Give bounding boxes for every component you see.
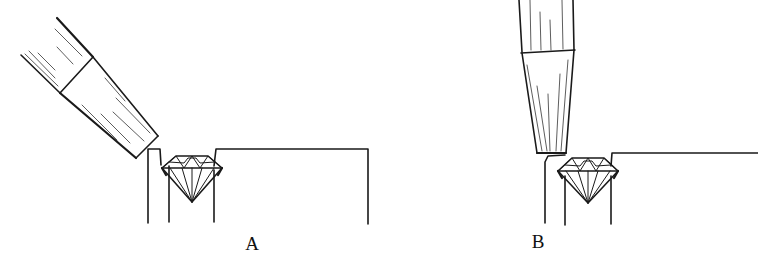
diamond-table-facets <box>565 161 611 166</box>
tool-shaft-hatch <box>113 112 144 141</box>
tool-handle-hatch <box>55 29 82 56</box>
panel-label-b: B <box>532 231 545 252</box>
diamond-a <box>162 156 222 202</box>
panel-label-a: A <box>245 233 259 254</box>
diamond-crown-facets <box>558 158 618 171</box>
tool-handle-hatch <box>29 51 55 78</box>
tool-shaft-hatch <box>556 74 560 151</box>
tool-handle-right-edge <box>573 0 574 50</box>
tool-ferrule-band <box>60 57 93 93</box>
panel-b: B <box>519 0 758 252</box>
bezel-left-wall <box>545 155 565 223</box>
tool-handle-hatch <box>562 0 563 49</box>
diamond-table-facets <box>169 158 215 163</box>
tool-shaft-lower-edge <box>60 93 136 158</box>
bezel-right-block <box>611 153 758 166</box>
tool-handle-hatch <box>530 0 531 50</box>
tool-shaft-hatch <box>548 94 550 151</box>
tool-handle-hatch <box>38 53 55 70</box>
tool-handle-hatch <box>57 47 73 64</box>
bezel-right-block <box>214 149 368 224</box>
diagram-canvas: A <box>0 0 758 262</box>
tool-shaft-hatch <box>537 86 547 151</box>
bezel-setting-a <box>148 149 368 224</box>
diamond-b <box>558 158 618 203</box>
tool-handle-hatch <box>550 20 551 50</box>
pusher-tool-angled <box>21 18 158 158</box>
pusher-tool-vertical <box>519 0 575 153</box>
tool-shaft-hatch <box>105 78 125 101</box>
bezel-left-wall <box>148 149 161 223</box>
tool-tip <box>136 136 158 158</box>
bezel-setting-b <box>545 153 758 225</box>
tool-handle-upper-edge <box>57 18 93 57</box>
diamond-pavilion-facet <box>170 168 192 202</box>
tool-handle-left-edge <box>519 0 522 52</box>
tool-handle-hatch <box>25 54 58 86</box>
diamond-pavilion-facet <box>566 171 588 203</box>
diamond-pavilion-facet <box>192 168 214 202</box>
tool-handle-lower-edge <box>21 55 60 93</box>
diamond-pavilion-facet <box>588 171 610 203</box>
tool-shaft-hatch <box>116 98 150 133</box>
tool-shaft-left-edge <box>522 53 537 153</box>
tool-handle-hatch <box>540 12 541 50</box>
tool-ferrule-band <box>521 50 575 53</box>
panel-a: A <box>21 18 368 254</box>
tool-shaft-hatch <box>82 105 117 140</box>
